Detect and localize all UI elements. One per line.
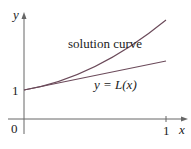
linearization-label-prefix: y = <box>94 77 115 92</box>
chart: y x 0 1 1 solution curve y = L(x) <box>0 0 191 149</box>
solution-curve-label: solution curve <box>68 37 142 50</box>
linearization-label: y = L(x) <box>94 78 137 91</box>
y-axis-arrow-icon <box>22 12 27 19</box>
x-axis-label: x <box>179 123 185 136</box>
y-axis-label: y <box>13 8 19 21</box>
linearization-label-arg: (x) <box>122 77 136 92</box>
x-axis-arrow-icon <box>181 117 188 122</box>
x-tick-label-1: 1 <box>163 124 170 137</box>
origin-label: 0 <box>11 122 18 135</box>
y-tick-label-1: 1 <box>12 84 19 97</box>
